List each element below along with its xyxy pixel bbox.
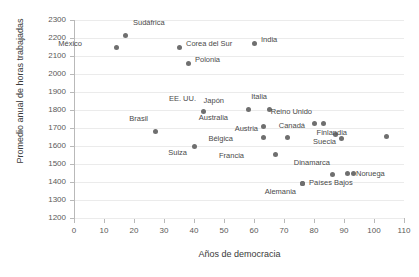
data-point	[192, 144, 197, 149]
data-point-label: Reino Unido	[271, 107, 312, 116]
x-tick-label: 10	[89, 227, 119, 235]
data-point	[330, 172, 335, 177]
data-point	[345, 171, 350, 176]
x-tick-label: 90	[329, 227, 359, 235]
data-point-label: Australia	[199, 113, 228, 122]
data-point-label: Brasil	[129, 114, 148, 123]
x-tick-mark	[374, 219, 375, 223]
x-tick-label: 80	[299, 227, 329, 235]
scatter-chart: Promedio anual de horas trabajadas 12001…	[0, 0, 419, 277]
x-tick-mark	[404, 219, 405, 223]
data-point	[123, 33, 128, 38]
data-point-label: Austria	[235, 124, 258, 133]
data-point	[261, 124, 266, 129]
data-point-label: Bélgica	[208, 134, 233, 143]
data-point	[114, 45, 119, 50]
data-point	[300, 181, 305, 186]
data-point	[351, 171, 356, 176]
x-tick-mark	[254, 219, 255, 223]
y-tick-label: 1900	[26, 88, 66, 96]
data-point-label: Países Bajos	[309, 178, 353, 187]
data-point-label: Suiza	[168, 148, 187, 157]
data-point	[246, 107, 251, 112]
x-tick-label: 40	[179, 227, 209, 235]
data-point	[312, 121, 317, 126]
x-axis-title: Años de democracia	[74, 248, 405, 260]
data-point-label: Alemania	[265, 187, 296, 196]
x-tick-mark	[104, 219, 105, 223]
data-point-label: México	[58, 39, 82, 48]
y-tick-label: 1800	[26, 106, 66, 114]
data-point-label: Noruega	[356, 169, 385, 178]
data-point	[153, 129, 158, 134]
x-tick-label: 110	[389, 227, 419, 235]
x-tick-label: 0	[59, 227, 89, 235]
data-point	[261, 135, 266, 140]
x-tick-label: 20	[119, 227, 149, 235]
data-point-label: Suecia	[313, 137, 336, 146]
data-point-label: Dinamarca	[294, 158, 330, 167]
data-point-label: EE. UU.	[169, 94, 196, 103]
x-tick-mark	[344, 219, 345, 223]
x-tick-label: 30	[149, 227, 179, 235]
y-tick-label: 1200	[26, 214, 66, 222]
data-point	[321, 121, 326, 126]
data-point-label: Sudáfrica	[133, 18, 165, 27]
data-point-label: Canadá	[279, 121, 305, 130]
y-tick-label: 2300	[26, 16, 66, 24]
data-point	[384, 134, 389, 139]
y-tick-label: 2000	[26, 70, 66, 78]
x-tick-label: 70	[269, 227, 299, 235]
x-tick-mark	[134, 219, 135, 223]
data-point-label: Francia	[219, 151, 244, 160]
y-tick-label: 1500	[26, 160, 66, 168]
data-point-label: Japón	[204, 96, 224, 105]
x-tick-mark	[224, 219, 225, 223]
x-tick-mark	[194, 219, 195, 223]
x-tick-label: 100	[359, 227, 389, 235]
x-tick-label: 60	[239, 227, 269, 235]
y-tick-label: 1600	[26, 142, 66, 150]
x-tick-mark	[314, 219, 315, 223]
y-tick-label: 1400	[26, 178, 66, 186]
x-tick-mark	[284, 219, 285, 223]
data-point-label: India	[261, 35, 277, 44]
gridline	[74, 218, 404, 219]
data-point	[252, 41, 257, 46]
y-tick-label: 1300	[26, 196, 66, 204]
plot-area: SudáfricaMéxicoCorea del SurPoloniaIndia…	[74, 20, 404, 218]
y-tick-label: 1700	[26, 124, 66, 132]
data-point-label: Finlandia	[317, 128, 347, 137]
y-tick-label: 2100	[26, 52, 66, 60]
data-point	[186, 61, 191, 66]
data-point	[273, 152, 278, 157]
x-tick-mark	[164, 219, 165, 223]
data-point-label: Corea del Sur	[186, 39, 232, 48]
data-point-label: Polonia	[195, 55, 220, 64]
data-point	[177, 45, 182, 50]
data-point-label: Italia	[251, 92, 267, 101]
x-tick-label: 50	[209, 227, 239, 235]
x-tick-mark	[74, 219, 75, 223]
data-point	[285, 135, 290, 140]
y-axis-title: Promedio anual de horas trabajadas	[13, 0, 27, 190]
